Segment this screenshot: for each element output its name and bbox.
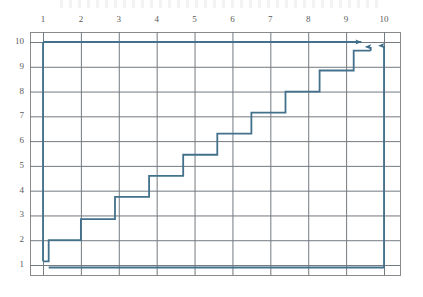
chart-figure: 12345678910 12345678910 bbox=[0, 0, 423, 297]
plot-area bbox=[0, 0, 423, 297]
